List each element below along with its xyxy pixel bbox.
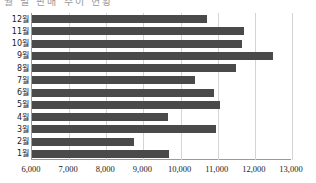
- bar[interactable]: [32, 150, 169, 158]
- bar-row: [32, 38, 291, 50]
- bar[interactable]: [32, 101, 220, 109]
- bar-row: [32, 74, 291, 86]
- bar[interactable]: [32, 15, 207, 23]
- bar-row: [32, 50, 291, 62]
- bar[interactable]: [32, 113, 168, 121]
- bar[interactable]: [32, 64, 236, 72]
- x-axis-labels: 6,0007,0008,0009,00010,00011,00012,00013…: [0, 164, 316, 178]
- bar-row: [32, 99, 291, 111]
- x-axis-tick-label: 13,000: [268, 164, 314, 175]
- bar-row: [32, 148, 291, 160]
- plot-area: [31, 13, 291, 160]
- y-axis-labels: 12월11월10월9월8월7월6월5월4월3월2월1월: [0, 13, 29, 160]
- y-axis-tick-label: 7월: [1, 76, 29, 85]
- caption-strip: 월 별 판매 추이 현황: [0, 0, 316, 9]
- bar[interactable]: [32, 52, 273, 60]
- y-axis-tick-label: 9월: [1, 51, 29, 60]
- y-axis-tick-label: 4월: [1, 113, 29, 122]
- y-axis-tick-label: 1월: [1, 149, 29, 158]
- chart-page: 월 별 판매 추이 현황 12월11월10월9월8월7월6월5월4월3월2월1월…: [0, 0, 316, 183]
- y-axis-tick-label: 2월: [1, 137, 29, 146]
- bar[interactable]: [32, 27, 244, 35]
- y-axis-tick-label: 8월: [1, 64, 29, 73]
- bar[interactable]: [32, 76, 195, 84]
- bar[interactable]: [32, 138, 134, 146]
- bar-row: [32, 87, 291, 99]
- y-axis-tick-label: 11월: [1, 27, 29, 36]
- bar[interactable]: [32, 40, 242, 48]
- y-axis-tick-label: 10월: [1, 39, 29, 48]
- bar[interactable]: [32, 89, 214, 97]
- bar-row: [32, 136, 291, 148]
- bar-row: [32, 25, 291, 37]
- y-axis-tick-label: 6월: [1, 88, 29, 97]
- bar-row: [32, 123, 291, 135]
- caption-text: 월 별 판매 추이 현황: [4, 0, 113, 8]
- y-axis-tick-label: 5월: [1, 100, 29, 109]
- bar-chart: 12월11월10월9월8월7월6월5월4월3월2월1월 6,0007,0008,…: [0, 9, 316, 183]
- gridline: [292, 13, 293, 160]
- bar-row: [32, 62, 291, 74]
- y-axis-tick-label: 3월: [1, 125, 29, 134]
- bar[interactable]: [32, 125, 216, 133]
- y-axis-tick-label: 12월: [1, 15, 29, 24]
- bar-row: [32, 111, 291, 123]
- bar-row: [32, 13, 291, 25]
